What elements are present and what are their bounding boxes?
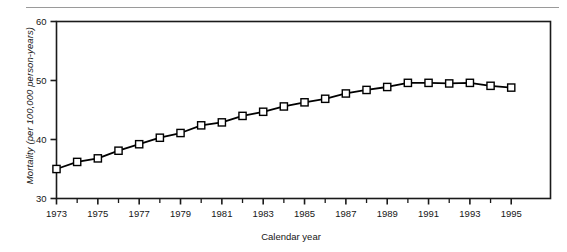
x-tick-label-1987: 1987	[335, 208, 356, 219]
x-tick-label-1993: 1993	[459, 208, 480, 219]
data-point-1984	[280, 103, 287, 110]
data-point-1993	[466, 79, 473, 86]
x-tick-label-1983: 1983	[253, 208, 274, 219]
y-tick-label-60: 60	[36, 16, 47, 27]
data-point-1994	[487, 82, 494, 89]
x-tick-label-1991: 1991	[418, 208, 439, 219]
y-tick-label-50: 50	[36, 75, 47, 86]
data-point-1986	[322, 95, 329, 102]
data-point-1983	[260, 108, 267, 115]
x-tick-label-1979: 1979	[170, 208, 191, 219]
data-point-1975	[94, 155, 101, 162]
x-axis-label: Calendar year	[236, 231, 346, 242]
data-point-1973	[53, 165, 60, 172]
data-point-1995	[508, 84, 515, 91]
data-point-1992	[446, 80, 453, 87]
data-point-1991	[425, 79, 432, 86]
x-tick-label-1973: 1973	[46, 208, 67, 219]
x-tick-label-1985: 1985	[294, 208, 315, 219]
data-point-1979	[177, 129, 184, 136]
data-point-1974	[74, 158, 81, 165]
line-chart: 3040506019731975197719791981198319851987…	[0, 0, 567, 252]
data-point-1988	[363, 86, 370, 93]
data-point-1987	[342, 90, 349, 97]
data-point-1982	[239, 112, 246, 119]
data-point-1981	[218, 119, 225, 126]
data-point-1980	[198, 122, 205, 129]
x-tick-label-1981: 1981	[211, 208, 232, 219]
plot-frame	[57, 22, 551, 199]
data-point-1989	[384, 83, 391, 90]
data-point-1985	[301, 99, 308, 106]
data-point-1977	[136, 141, 143, 148]
data-point-1978	[156, 134, 163, 141]
data-line	[57, 83, 512, 169]
x-tick-label-1989: 1989	[377, 208, 398, 219]
y-axis-label: Mortality (per 100,000 person-years)	[24, 16, 35, 196]
x-tick-label-1975: 1975	[87, 208, 108, 219]
data-point-1976	[115, 147, 122, 154]
x-tick-label-1977: 1977	[129, 208, 150, 219]
data-point-1990	[404, 79, 411, 86]
y-tick-label-30: 30	[36, 193, 47, 204]
y-tick-label-40: 40	[36, 134, 47, 145]
figure-container: 3040506019731975197719791981198319851987…	[0, 0, 567, 252]
x-tick-label-1995: 1995	[501, 208, 522, 219]
